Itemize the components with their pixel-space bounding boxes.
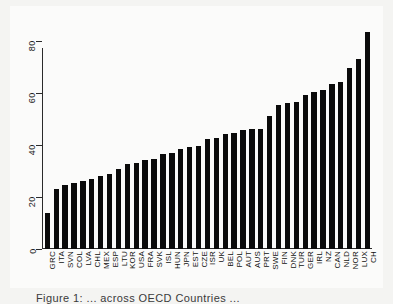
bar-svk	[150, 20, 159, 249]
bar-tur	[292, 20, 301, 249]
y-tick-label-80: 80	[0, 36, 33, 46]
bar-fill	[62, 185, 67, 249]
bar-pol	[230, 20, 239, 249]
x-tick-label-kor: KOR	[123, 250, 132, 284]
bar-fill	[45, 213, 50, 249]
x-tick-label-ltu: LTU	[114, 250, 123, 284]
x-tick-label-esp: ESP	[105, 250, 114, 284]
x-tick-label-grc: GRC	[43, 250, 52, 284]
bar-series	[43, 20, 372, 249]
bar-fill	[142, 160, 147, 249]
x-tick-label-chl: CHL	[87, 250, 96, 284]
bar-nor	[345, 20, 354, 249]
bar-fill	[187, 147, 192, 249]
x-tick-label-text: CH	[370, 251, 378, 263]
bar-swe	[265, 20, 274, 249]
bar-ger	[301, 20, 310, 249]
bar-esp	[105, 20, 114, 249]
bar-fill	[294, 102, 299, 249]
x-tick-label-irl: IRL	[310, 250, 319, 284]
bar-fra	[141, 20, 150, 249]
bar-fill	[205, 139, 210, 249]
x-tick-label-nor: NOR	[345, 250, 354, 284]
bar-chl	[87, 20, 96, 249]
y-tick-label-text: 60	[29, 92, 38, 103]
bar-fill	[71, 183, 76, 249]
x-tick-label-mex: MEX	[96, 250, 105, 284]
bar-col	[70, 20, 79, 249]
bar-cze	[194, 20, 203, 249]
x-tick-label-can: CAN	[328, 250, 337, 284]
x-axis-tick-labels: GRCITASVNCOLLVACHLMEXESPLTUKORUSAFRASVKI…	[43, 250, 372, 286]
x-tick-label-aut: AUT	[239, 250, 248, 284]
bar-fill	[356, 59, 361, 249]
x-tick-label-isr: ISR	[203, 250, 212, 284]
y-tick-label-text: 20	[29, 196, 38, 207]
bar-nz	[319, 20, 328, 249]
bar-fill	[107, 174, 112, 249]
bar-fill	[169, 153, 174, 249]
bar-fill	[285, 103, 290, 249]
chart-figure: 020406080 GRCITASVNCOLLVACHLMEXESPLTUKOR…	[0, 0, 393, 304]
x-tick-label-lux: LUX	[354, 250, 363, 284]
x-tick-label-ger: GER	[301, 250, 310, 284]
bar-prt	[256, 20, 265, 249]
x-tick-label-dnk: DNK	[283, 250, 292, 284]
bar-nld	[336, 20, 345, 249]
y-tick-label-text: 80	[29, 40, 38, 51]
bar-bel	[221, 20, 230, 249]
bar-est	[185, 20, 194, 249]
bar-fill	[125, 164, 130, 249]
figure-caption: Figure 1: ... across OECD Countries ...	[36, 292, 376, 304]
bar-aus	[248, 20, 257, 249]
bar-fill	[116, 169, 121, 249]
bar-aut	[239, 20, 248, 249]
x-tick-label-tur: TUR	[292, 250, 301, 284]
x-tick-label-isl: ISL	[159, 250, 168, 284]
bar-fill	[347, 68, 352, 249]
y-tick-label-20: 20	[0, 192, 33, 202]
bar-kor	[123, 20, 132, 249]
bar-uk	[212, 20, 221, 249]
bar-fill	[214, 138, 219, 249]
bar-fill	[311, 92, 316, 249]
x-tick-label-ch: CH	[363, 250, 372, 284]
bar-fill	[303, 95, 308, 249]
bar-can	[328, 20, 337, 249]
bar-irl	[310, 20, 319, 249]
y-tick-label-40: 40	[0, 140, 33, 150]
bar-fill	[160, 154, 165, 249]
bar-usa	[132, 20, 141, 249]
x-tick-label-lva: LVA	[79, 250, 88, 284]
x-tick-label-uk: UK	[212, 250, 221, 284]
x-tick-label-usa: USA	[132, 250, 141, 284]
bar-fill	[54, 189, 59, 249]
bar-fill	[365, 32, 370, 249]
bar-fill	[178, 149, 183, 249]
bar-fill	[258, 129, 263, 249]
y-tick-label-60: 60	[0, 88, 33, 98]
bar-fill	[89, 179, 94, 249]
y-tick-label-text: 0	[29, 249, 38, 254]
x-tick-label-jpn: JPN	[176, 250, 185, 284]
x-tick-label-svn: SVN	[61, 250, 70, 284]
bar-fill	[223, 134, 228, 249]
x-tick-label-est: EST	[185, 250, 194, 284]
bar-isl	[159, 20, 168, 249]
x-tick-label-swe: SWE	[265, 250, 274, 284]
x-tick-label-col: COL	[70, 250, 79, 284]
bar-svn	[61, 20, 70, 249]
bar-hun	[167, 20, 176, 249]
bar-grc	[43, 20, 52, 249]
bar-ita	[52, 20, 61, 249]
bar-mex	[96, 20, 105, 249]
x-tick-label-fin: FIN	[274, 250, 283, 284]
bar-fill	[329, 84, 334, 249]
x-tick-label-hun: HUN	[167, 250, 176, 284]
bar-fill	[276, 105, 281, 249]
bar-ltu	[114, 20, 123, 249]
y-tick-label-0: 0	[0, 244, 33, 254]
x-tick-label-cze: CZE	[194, 250, 203, 284]
bar-fill	[267, 116, 272, 249]
x-tick-label-ita: ITA	[52, 250, 61, 284]
